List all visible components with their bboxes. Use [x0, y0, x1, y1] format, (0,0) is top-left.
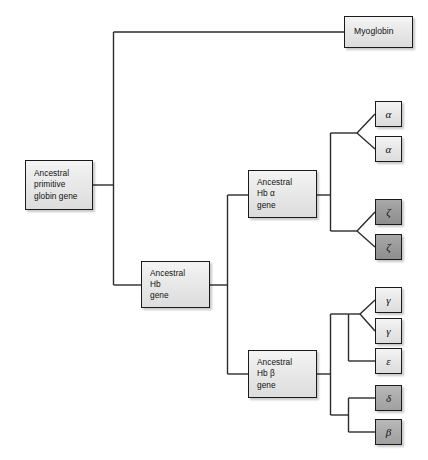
leaf-zeta-1[interactable]: ζ: [375, 199, 402, 225]
leaf-beta[interactable]: β: [375, 419, 402, 445]
leaf-alpha-1[interactable]: α: [375, 101, 402, 127]
leaf-label: γ: [386, 295, 390, 306]
leaf-label: δ: [386, 393, 391, 404]
globin-gene-tree-diagram: Ancestral primitive globin gene Myoglobi…: [0, 0, 428, 460]
node-label: Ancestral primitive globin gene: [26, 168, 77, 202]
leaf-gamma-1[interactable]: γ: [375, 287, 402, 313]
node-ancestral-hb-gene[interactable]: Ancestral Hb gene: [141, 261, 210, 308]
node-label: Ancestral Hb α gene: [249, 177, 292, 211]
node-ancestral-primitive-globin-gene[interactable]: Ancestral primitive globin gene: [25, 160, 93, 210]
leaf-zeta-2[interactable]: ζ: [375, 234, 402, 260]
leaf-label: β: [386, 427, 392, 438]
leaf-label: ζ: [386, 242, 391, 253]
edge-split-to-alpha-2: [357, 133, 375, 149]
leaf-gamma-2[interactable]: γ: [375, 318, 402, 344]
node-label: Myoglobin: [345, 26, 394, 37]
tree-connector-lines: [0, 0, 428, 460]
node-ancestral-hb-beta-gene[interactable]: Ancestral Hb β gene: [248, 350, 317, 398]
edge-split-to-gamma-1: [360, 300, 375, 314]
leaf-label: ε: [386, 356, 390, 367]
leaf-epsilon[interactable]: ε: [375, 348, 402, 374]
node-myoglobin[interactable]: Myoglobin: [344, 16, 413, 48]
edge-split-to-gamma-2: [360, 314, 375, 331]
leaf-alpha-2[interactable]: α: [375, 136, 402, 162]
node-label: Ancestral Hb β gene: [249, 357, 292, 391]
edge-split-to-zeta-1: [357, 212, 375, 231]
leaf-label: α: [386, 144, 392, 155]
node-ancestral-hb-alpha-gene[interactable]: Ancestral Hb α gene: [248, 170, 317, 218]
edge-split-to-alpha-1: [357, 114, 375, 133]
node-label: Ancestral Hb gene: [142, 268, 185, 302]
edge-split-to-zeta-2: [357, 231, 375, 247]
leaf-label: γ: [386, 326, 390, 337]
leaf-delta[interactable]: δ: [375, 385, 402, 411]
leaf-label: ζ: [386, 207, 391, 218]
leaf-label: α: [386, 109, 392, 120]
